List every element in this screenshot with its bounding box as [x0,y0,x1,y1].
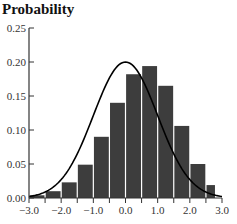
y-tick-label: 0.05 [7,158,27,170]
y-tick-label: 0.00 [7,192,27,204]
x-tick-label: 0.0 [119,204,133,216]
histogram-chart: Probability 0.000.050.100.150.200.25−3.0… [0,0,237,224]
histogram-bar [110,103,125,198]
histogram-bar [94,137,109,198]
histogram-bar [78,165,93,198]
histogram-bar [46,191,61,198]
x-tick-label: 3.0 [215,204,229,216]
histogram-bar [158,86,173,198]
histogram-bar [174,126,189,198]
histogram-bar [207,185,215,198]
histogram-bars [30,66,215,198]
histogram-bar [62,182,77,198]
y-tick-label: 0.15 [7,90,27,102]
y-tick-label: 0.10 [7,124,27,136]
histogram-bar [142,66,157,198]
x-tick-label: −3.0 [19,204,39,216]
histogram-bar [190,164,205,198]
x-tick-label: −2.0 [51,204,71,216]
x-tick-label: −1.0 [83,204,103,216]
histogram-bar [126,74,141,198]
x-tick-label: 2.0 [183,204,197,216]
chart-title: Probability [2,1,75,17]
x-tick-label: 1.0 [151,204,165,216]
y-tick-label: 0.20 [7,56,27,68]
y-tick-label: 0.25 [7,22,27,34]
